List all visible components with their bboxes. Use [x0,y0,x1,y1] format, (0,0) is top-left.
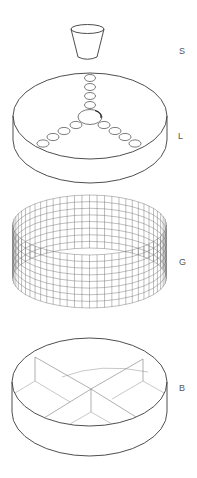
label-b: B [179,384,185,393]
component-g-mesh [13,195,167,308]
exploded-assembly-diagram [0,0,197,478]
component-s-cup [71,25,104,60]
label-s: S [179,47,185,56]
label-l: L [178,132,183,141]
component-b-bowl [12,338,167,456]
label-g: G [179,258,186,267]
component-l-lid [13,73,167,183]
